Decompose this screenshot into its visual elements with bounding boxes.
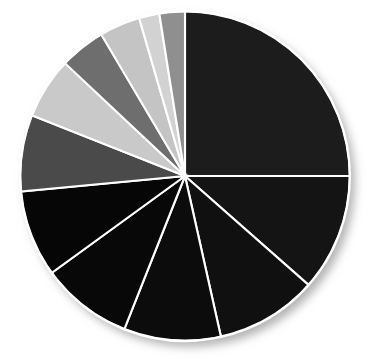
pie-chart-figure: Slice 1 25.0%Slice 2 11.5%Slice 3 10.0%S… [0,0,381,359]
pie-slices-group: Slice 1 25.0%Slice 2 11.5%Slice 3 10.0%S… [20,11,350,341]
pie-slice-1[interactable]: Slice 1 25.0% [185,11,350,176]
pie-chart-canvas: Slice 1 25.0%Slice 2 11.5%Slice 3 10.0%S… [0,0,381,359]
